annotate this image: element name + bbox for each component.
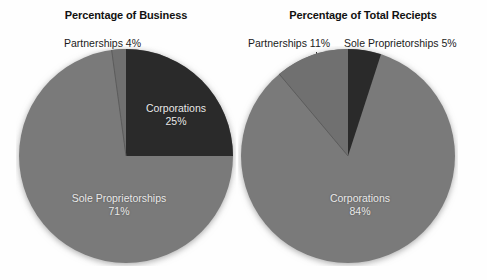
pie-charts-figure: Percentage of Business Percentage of Tot… <box>0 0 487 280</box>
slice-label-left-corporations-name: Corporations <box>146 102 206 114</box>
slice-label-left-sole-proprietorships-percent: 71% <box>44 205 194 218</box>
slice-label-left-sole-proprietorships: Sole Proprietorships 71% <box>44 192 194 218</box>
slice-label-right-corporations-name: Corporations <box>330 192 390 204</box>
pie-left-svg <box>16 46 236 266</box>
pie-chart-right <box>238 46 458 266</box>
slice-label-left-corporations: Corporations 25% <box>128 102 224 128</box>
pie-chart-left <box>16 46 236 266</box>
pie-right-svg <box>238 46 458 266</box>
slice-label-left-corporations-percent: 25% <box>128 115 224 128</box>
chart-title-right: Percentage of Total Reciepts <box>238 9 487 21</box>
chart-title-left: Percentage of Business <box>0 9 252 21</box>
slice-label-right-corporations-percent: 84% <box>290 205 430 218</box>
slice-label-left-sole-proprietorships-name: Sole Proprietorships <box>72 192 167 204</box>
slice-label-right-corporations: Corporations 84% <box>290 192 430 218</box>
